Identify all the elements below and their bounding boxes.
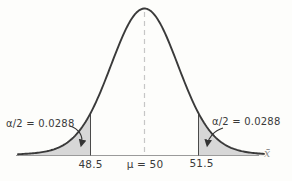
lower-critical-tick-label: 48.5: [76, 158, 105, 170]
right-tail-label: α/2 = 0.0288: [212, 116, 280, 128]
diagram-canvas: [0, 0, 292, 181]
x-bar-axis-label: x̄: [264, 148, 270, 160]
upper-critical-tick-label: 51.5: [187, 157, 216, 169]
mean-tick-label: μ = 50: [124, 158, 166, 170]
left-tail-label: α/2 = 0.0288: [6, 118, 74, 130]
normal-distribution-diagram: α/2 = 0.0288 α/2 = 0.0288 48.5 μ = 50 51…: [0, 0, 292, 181]
bell-curve: [18, 9, 264, 155]
